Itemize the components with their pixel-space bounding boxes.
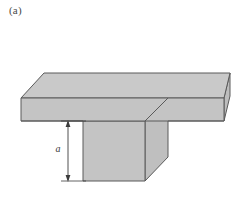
figure-panel: (a) a: [0, 0, 246, 204]
stem-front-face: [83, 121, 145, 181]
flange-front-face: [21, 98, 224, 121]
t-section-solid-illustration: a: [0, 0, 246, 204]
dimension-label: a: [56, 143, 61, 154]
flange-top-face: [21, 73, 230, 98]
